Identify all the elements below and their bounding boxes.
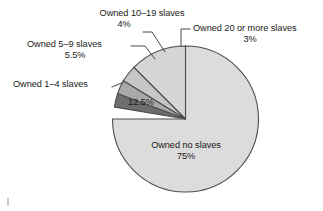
pie-label-owned-20-or-more-slaves[interactable]: Owned 20 or more slaves 3% bbox=[193, 23, 321, 46]
pie-label-name: Owned 1–4 slaves bbox=[13, 79, 88, 89]
pie-label-percent: 75% bbox=[133, 151, 239, 162]
pie-label-percent: 5.5% bbox=[5, 50, 145, 61]
pie-label-owned-1-4-slaves-percent[interactable]: 12.5% bbox=[118, 97, 164, 108]
leader-line-owned-10-19-slaves bbox=[143, 32, 165, 52]
pie-chart: Owned 10–19 slaves 4% Owned 20 or more s… bbox=[0, 0, 323, 211]
pie-label-percent: 4% bbox=[48, 19, 200, 30]
pie-label-name: Owned no slaves bbox=[151, 140, 221, 150]
page-artifact-mark bbox=[7, 198, 9, 206]
pie-label-owned-no-slaves[interactable]: Owned no slaves 75% bbox=[133, 140, 239, 163]
pie-label-percent: 12.5% bbox=[128, 97, 154, 107]
pie-label-name: Owned 10–19 slaves bbox=[100, 8, 185, 18]
pie-label-name: Owned 20 or more slaves bbox=[193, 23, 297, 33]
pie-label-percent: 3% bbox=[179, 34, 321, 45]
pie-label-owned-10-19-slaves[interactable]: Owned 10–19 slaves 4% bbox=[84, 8, 200, 31]
pie-label-owned-1-4-slaves[interactable]: Owned 1–4 slaves bbox=[13, 79, 123, 90]
pie-label-owned-5-9-slaves[interactable]: Owned 5–9 slaves 5.5% bbox=[27, 39, 145, 62]
pie-label-name: Owned 5–9 slaves bbox=[27, 39, 102, 49]
